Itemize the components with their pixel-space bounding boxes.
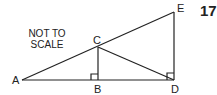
point-label-c: C (93, 35, 101, 46)
right-angle-marker-b (91, 74, 98, 80)
point-label-b: B (94, 84, 101, 95)
note-line-1: NOT TO (24, 28, 70, 39)
point-label-d: D (171, 84, 179, 95)
point-label-e: E (177, 3, 184, 14)
point-label-a: A (12, 75, 19, 86)
figure-number: 17 (200, 2, 217, 19)
note-line-2: SCALE (24, 39, 70, 50)
not-to-scale-note: NOT TO SCALE (24, 28, 70, 50)
segment-cd (98, 47, 174, 80)
